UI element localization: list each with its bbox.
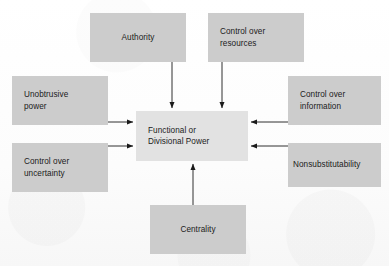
node-centrality[interactable]: Centrality — [150, 205, 246, 254]
node-authority-label: Authority — [122, 32, 155, 44]
node-control-over-uncertainty[interactable]: Control over uncertainty — [12, 143, 108, 192]
node-control-over-resources-label: Control over resources — [220, 26, 265, 49]
node-unobtrusive-power[interactable]: Unobtrusive power — [12, 76, 108, 125]
node-control-over-uncertainty-label: Control over uncertainty — [24, 156, 69, 179]
node-functional-or-divisional-power-label: Functional or Divisional Power — [148, 125, 209, 148]
node-unobtrusive-power-label: Unobtrusive power — [24, 89, 68, 112]
node-centrality-label: Centrality — [180, 224, 215, 236]
node-control-over-resources[interactable]: Control over resources — [208, 13, 304, 62]
node-control-over-information[interactable]: Control over information — [288, 76, 381, 125]
node-control-over-information-label: Control over information — [300, 89, 345, 112]
node-functional-or-divisional-power[interactable]: Functional or Divisional Power — [136, 111, 248, 161]
node-nonsubstitutability-label: Nonsubstitutability — [293, 159, 360, 171]
diagram-canvas: Authority Control over resources Unobtru… — [0, 0, 389, 266]
node-authority[interactable]: Authority — [90, 13, 186, 62]
node-nonsubstitutability[interactable]: Nonsubstitutability — [288, 143, 381, 187]
